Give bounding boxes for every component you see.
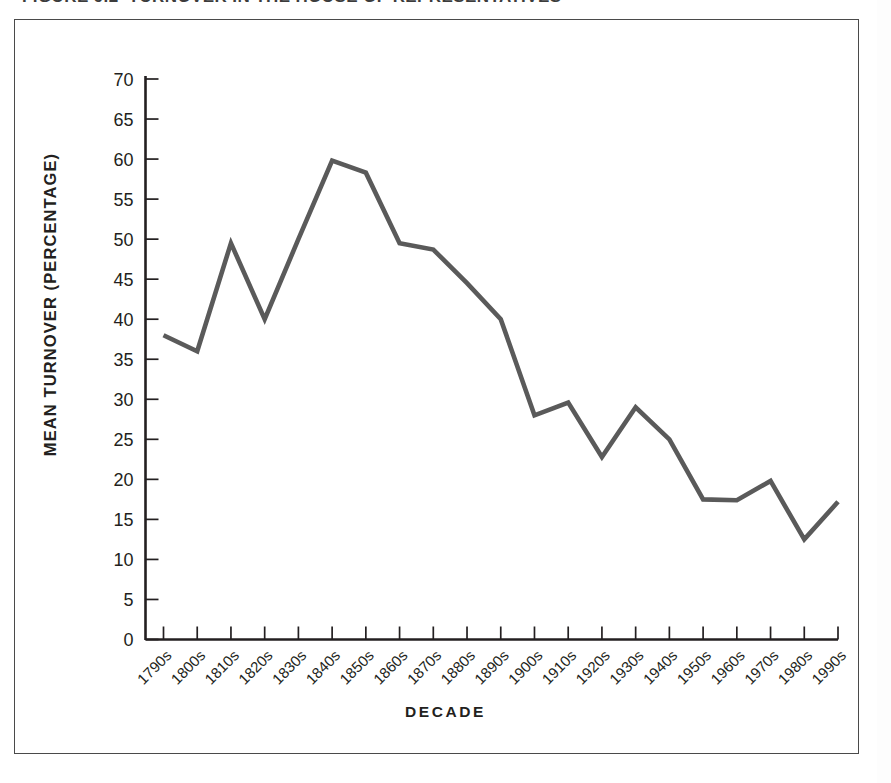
y-tick-label: 25 <box>113 430 133 450</box>
y-tick-label: 45 <box>113 270 133 290</box>
x-tick-label: 1960s <box>707 647 748 688</box>
page-edge <box>877 0 891 783</box>
x-tick-label: 1920s <box>572 647 613 688</box>
y-tick-label: 15 <box>113 510 133 530</box>
y-tick-label: 60 <box>113 150 133 170</box>
x-tick-label: 1800s <box>167 647 208 688</box>
x-tick-label: 1810s <box>201 647 242 688</box>
x-tick-label: 1910s <box>538 647 579 688</box>
x-tick-label: 1870s <box>403 647 444 688</box>
x-tick-label: 1980s <box>774 647 815 688</box>
y-tick-label: 70 <box>113 70 133 90</box>
x-axis-ticks <box>164 627 839 640</box>
line-chart-plot: 0510152025303540455055606570 1790s1800s1… <box>0 0 891 783</box>
x-tick-label: 1990s <box>808 647 849 688</box>
y-axis-ticks <box>146 79 159 640</box>
x-tick-label: 1820s <box>235 647 276 688</box>
x-tick-label: 1930s <box>606 647 647 688</box>
x-tick-label: 1840s <box>302 647 343 688</box>
y-tick-label: 35 <box>113 350 133 370</box>
y-tick-label: 55 <box>113 190 133 210</box>
x-tick-label: 1830s <box>269 647 310 688</box>
x-tick-label: 1940s <box>640 647 681 688</box>
x-tick-label: 1900s <box>505 647 546 688</box>
figure-root: FIGURE 9.2TURNOVER IN THE HOUSE OF REPRE… <box>0 0 891 783</box>
x-tick-label: 1850s <box>336 647 377 688</box>
y-tick-label: 50 <box>113 230 133 250</box>
y-tick-label: 10 <box>113 550 133 570</box>
x-tick-label: 1880s <box>437 647 478 688</box>
x-tick-label: 1890s <box>471 647 512 688</box>
x-tick-label: 1970s <box>741 647 782 688</box>
y-tick-label: 5 <box>123 590 133 610</box>
y-axis-tick-labels: 0510152025303540455055606570 <box>113 70 133 651</box>
y-tick-label: 40 <box>113 310 133 330</box>
y-tick-label: 0 <box>123 630 133 650</box>
y-tick-label: 20 <box>113 470 133 490</box>
x-tick-label: 1790s <box>134 647 175 688</box>
x-axis-tick-labels: 1790s1800s1810s1820s1830s1840s1850s1860s… <box>134 647 849 688</box>
x-tick-label: 1950s <box>673 647 714 688</box>
y-tick-label: 30 <box>113 390 133 410</box>
turnover-line-series <box>164 161 839 540</box>
y-tick-label: 65 <box>113 110 133 130</box>
x-tick-label: 1860s <box>370 647 411 688</box>
